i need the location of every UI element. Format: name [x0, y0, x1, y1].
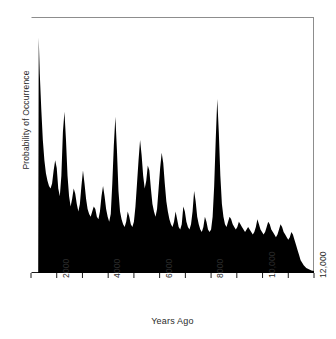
x-tick-label: 12,000: [318, 264, 328, 278]
x-axis-title: Years Ago: [31, 316, 314, 326]
x-tick-label: 8000: [215, 264, 225, 278]
x-tick-label: 6000: [164, 264, 174, 278]
figure-container: 200040006000800010,00012,000 Probability…: [0, 0, 336, 339]
x-tick-label: 2000: [61, 264, 71, 278]
y-axis-title: Probability of Occurrence: [18, 0, 34, 248]
area-series-path: [38, 37, 314, 273]
area-curve-svg: [31, 17, 314, 273]
x-tick-label: 4000: [112, 264, 122, 278]
x-tick-label: 10,000: [267, 264, 277, 278]
plot-area: [31, 17, 314, 273]
